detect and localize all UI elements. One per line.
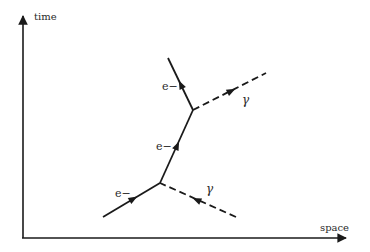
time-axis-label: time — [34, 11, 57, 22]
photon-out-label: γ — [242, 93, 250, 107]
electron-mid-arrow-icon — [172, 140, 182, 151]
electron-mid-label: e− — [156, 140, 172, 153]
space-axis-label: space — [320, 222, 349, 233]
feynman-diagram: time space e− e− e− γ γ — [0, 0, 370, 252]
particle-labels: e− e− e− γ γ — [115, 80, 250, 200]
photon-in-label: γ — [206, 182, 214, 196]
electron-out-label: e− — [162, 80, 178, 93]
photon-in-arrow-icon — [191, 195, 202, 205]
direction-arrows — [128, 79, 237, 205]
electron-in-label: e− — [115, 187, 131, 200]
photon-out-arrow-icon — [226, 86, 237, 96]
